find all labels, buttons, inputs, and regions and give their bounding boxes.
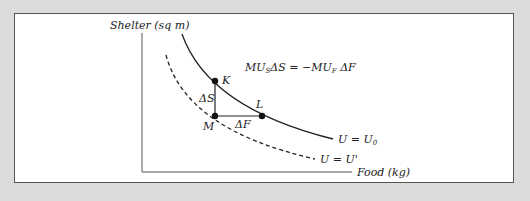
delta-f-label: ΔF bbox=[234, 118, 251, 131]
point-m bbox=[212, 113, 218, 119]
point-l-label: L bbox=[255, 98, 263, 111]
delta-s-label: ΔS bbox=[198, 92, 215, 105]
curve-u-prime-label: U = U' bbox=[320, 153, 358, 166]
point-l bbox=[259, 113, 265, 119]
mrs-equation: MUSΔS = −MUF ΔF bbox=[244, 61, 356, 75]
point-k-label: K bbox=[221, 74, 231, 87]
point-m-label: M bbox=[202, 120, 215, 133]
curve-u0-label: U = U0 bbox=[338, 133, 378, 147]
point-k bbox=[212, 78, 218, 84]
x-axis-label: Food (kg) bbox=[356, 166, 410, 179]
indifference-curve-diagram: Shelter (sq m) Food (kg) K L M ΔS ΔF MUS… bbox=[0, 0, 530, 201]
y-axis-label: Shelter (sq m) bbox=[110, 19, 190, 32]
